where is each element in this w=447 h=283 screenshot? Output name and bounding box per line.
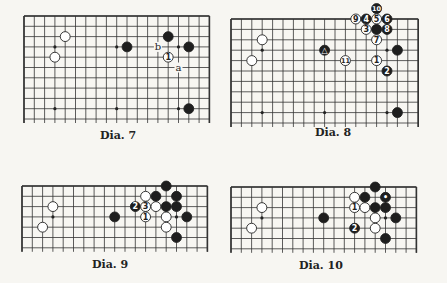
svg-text:3: 3: [363, 25, 369, 34]
white-stone: [257, 203, 267, 213]
white-stone-7: 7: [372, 35, 382, 45]
hoshi-point: [115, 107, 118, 110]
svg-text:2: 2: [384, 67, 390, 76]
black-stone: [392, 45, 402, 55]
svg-text:7: 7: [374, 36, 380, 45]
black-stone-•: •: [381, 192, 391, 202]
go-board-9: 231: [22, 181, 207, 252]
black-stone: [182, 212, 192, 222]
black-stone: [392, 108, 402, 118]
black-stone: [184, 42, 194, 52]
black-stone-4: 4: [361, 14, 371, 24]
black-stone: [381, 234, 391, 244]
white-stone-1: 1: [163, 52, 173, 62]
svg-text:9: 9: [353, 15, 359, 24]
hoshi-point: [115, 45, 118, 48]
svg-text:2: 2: [133, 202, 139, 211]
hoshi-point: [53, 45, 56, 48]
white-stone: [247, 56, 257, 66]
hoshi-point: [53, 107, 56, 110]
svg-text:•: •: [383, 193, 388, 202]
black-stone: [110, 212, 120, 222]
go-board-10: •12: [231, 182, 416, 253]
white-stone: [360, 203, 370, 213]
svg-text:10: 10: [372, 5, 382, 13]
hoshi-point: [385, 49, 388, 52]
hoshi-point: [51, 215, 54, 218]
black-stone-2: 2: [350, 223, 360, 233]
hoshi-point: [385, 111, 388, 114]
svg-text:1: 1: [374, 56, 380, 65]
caption-dia-8: Dia. 8: [315, 126, 351, 139]
white-stone-1: 1: [141, 212, 151, 222]
white-stone: [161, 222, 171, 232]
go-board-7: ba1: [24, 16, 209, 123]
white-stone: [161, 212, 171, 222]
white-stone: [350, 192, 360, 202]
black-stone: [381, 203, 391, 213]
svg-text:1: 1: [352, 203, 358, 212]
black-stone: [172, 233, 182, 243]
black-stone: [319, 213, 329, 223]
svg-text:6: 6: [384, 15, 390, 24]
white-stone-11: 11: [340, 56, 350, 66]
svg-text:3: 3: [143, 202, 149, 211]
black-stone: [370, 203, 380, 213]
black-stone: [372, 24, 382, 34]
black-stone: [172, 191, 182, 201]
hoshi-point: [177, 107, 180, 110]
black-stone: [360, 192, 370, 202]
black-stone-10: 10: [372, 4, 382, 14]
svg-text:1: 1: [165, 53, 171, 62]
black-stone: [151, 191, 161, 201]
caption-dia-10: Dia. 10: [299, 259, 343, 272]
caption-dia-7: Dia. 7: [100, 129, 136, 142]
svg-text:8: 8: [384, 25, 390, 34]
svg-text:11: 11: [341, 57, 351, 65]
hoshi-point: [384, 216, 387, 219]
black-stone: [370, 182, 380, 192]
black-stone-2: 2: [382, 66, 392, 76]
black-stone-8: 8: [382, 24, 392, 34]
black-stone: [172, 202, 182, 212]
go-board-8: △1094563871112: [231, 4, 418, 127]
hoshi-point: [260, 216, 263, 219]
white-stone: [370, 213, 380, 223]
black-stone-2: 2: [130, 202, 140, 212]
white-stone: [141, 191, 151, 201]
svg-text:2: 2: [352, 224, 358, 233]
svg-text:△: △: [322, 46, 329, 55]
black-stone: [161, 181, 171, 191]
hoshi-point: [261, 111, 264, 114]
svg-text:4: 4: [363, 15, 369, 24]
black-stone-6: 6: [382, 14, 392, 24]
white-stone-3: 3: [141, 202, 151, 212]
black-stone: [161, 202, 171, 212]
white-stone: [48, 202, 58, 212]
white-stone: [60, 32, 70, 42]
white-stone: [247, 223, 257, 233]
black-stone: [163, 32, 173, 42]
black-stone: [122, 42, 132, 52]
white-stone: [257, 35, 267, 45]
hoshi-point: [175, 215, 178, 218]
point-label-b: b: [155, 41, 161, 52]
white-stone-1: 1: [372, 56, 382, 66]
diagrams-canvas: ba1△1094563871112231•12: [0, 0, 447, 283]
caption-dia-9: Dia. 9: [92, 258, 128, 271]
white-stone: [38, 222, 48, 232]
point-label-a: a: [176, 62, 182, 73]
hoshi-point: [323, 111, 326, 114]
black-stone-△: △: [320, 45, 330, 55]
white-stone: [151, 202, 161, 212]
hoshi-point: [177, 45, 180, 48]
svg-text:1: 1: [143, 213, 149, 222]
hoshi-point: [261, 49, 264, 52]
black-stone: [184, 104, 194, 114]
white-stone: [50, 52, 60, 62]
svg-text:5: 5: [374, 15, 380, 24]
black-stone: [391, 213, 401, 223]
white-stone-9: 9: [351, 14, 361, 24]
white-stone: [370, 223, 380, 233]
white-stone-1: 1: [350, 203, 360, 213]
